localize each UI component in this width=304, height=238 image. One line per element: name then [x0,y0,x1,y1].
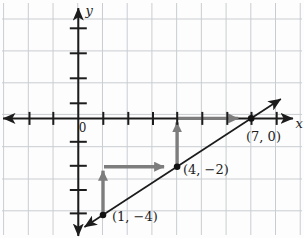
point-label: (1, −4) [112,209,158,224]
point-dot [100,212,107,219]
coordinate-plane-figure: (1, −4)(4, −2)(7, 0)0xy [0,0,304,238]
x-axis-label: x [296,116,304,131]
point-label: (7, 0) [246,129,281,144]
point-dot [174,163,181,170]
y-axis-label: y [85,3,94,18]
origin-label: 0 [79,121,87,135]
point-dot [248,115,255,122]
graph-svg: (1, −4)(4, −2)(7, 0)0xy [0,0,304,238]
point-label: (4, −2) [183,162,229,177]
